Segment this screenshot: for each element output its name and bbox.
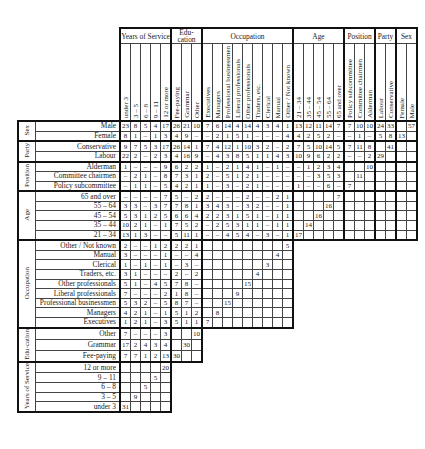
- table-cell: 16: [324, 201, 334, 211]
- table-cell: [283, 270, 294, 280]
- table-cell: [213, 260, 223, 270]
- table-cell: 5: [151, 373, 161, 383]
- table-cell: [375, 172, 386, 182]
- table-cell: –: [273, 172, 283, 182]
- table-cell: [273, 240, 283, 250]
- table-cell: [396, 151, 407, 161]
- row-group-label-text: Years of Service: [23, 363, 31, 409]
- table-cell: –: [131, 328, 141, 340]
- table-cell: [396, 172, 407, 182]
- table-row: 9 – 115: [18, 373, 417, 383]
- table-cell: 9: [192, 151, 203, 161]
- column-group-header: Age: [293, 28, 344, 44]
- column-group-header: Position: [344, 28, 375, 44]
- column-header: Professional businessmen: [223, 44, 233, 122]
- table-cell: [151, 362, 161, 372]
- column-header: 21 – 34: [293, 44, 304, 122]
- table-cell: 1: [120, 318, 131, 328]
- table-row: Edu-cationOther7–––310: [18, 328, 417, 340]
- table-cell: [273, 289, 283, 299]
- table-cell: [202, 270, 213, 280]
- column-header: 65 and over: [334, 44, 345, 122]
- table-cell: 10: [243, 141, 253, 151]
- row-label: Other / Not known: [36, 240, 121, 250]
- column-header-label: Executives: [204, 85, 212, 118]
- column-header-label: Policy subcommittee: [346, 57, 354, 118]
- table-cell: [243, 308, 253, 318]
- table-cell: 1: [263, 151, 273, 161]
- table-cell: 11: [355, 141, 365, 151]
- row-label: Traders, etc.: [36, 270, 121, 280]
- table-cell: [263, 279, 273, 289]
- table-cell: 3: [161, 131, 172, 141]
- table-cell: 3: [243, 201, 253, 211]
- column-group-header: Party: [375, 28, 396, 44]
- column-header-label: Traders, etc.: [254, 82, 262, 119]
- table-cell: [141, 373, 151, 383]
- table-cell: 1: [161, 260, 172, 270]
- column-header-label: 35 – 44: [305, 95, 313, 118]
- table-cell: 1: [141, 181, 151, 191]
- table-cell: [253, 289, 263, 299]
- table-row: Managers421–15128: [18, 308, 417, 318]
- column-header-label: Conservative: [387, 79, 395, 118]
- table-cell: [386, 151, 397, 161]
- column-header-label: Committee chairmen: [356, 57, 364, 118]
- table-cell: –: [202, 221, 213, 231]
- table-row: Traders, etc.31–––2–24: [18, 270, 417, 280]
- table-cell: [355, 162, 365, 172]
- table-cell: –: [151, 298, 161, 308]
- table-cell: 2: [314, 162, 324, 172]
- row-label: Labour: [36, 151, 121, 161]
- table-cell: [344, 172, 355, 182]
- row-label: Manual: [36, 250, 121, 260]
- table-cell: –: [151, 162, 161, 172]
- table-cell: [355, 191, 365, 201]
- row-label: 21 – 34: [36, 230, 121, 240]
- table-cell: 5: [141, 121, 151, 131]
- table-cell: 4: [253, 270, 263, 280]
- table-cell: 1: [141, 260, 151, 270]
- table-cell: [386, 181, 397, 191]
- table-cell: 1: [233, 162, 243, 172]
- table-cell: [202, 298, 213, 308]
- column-header: Female: [396, 44, 407, 122]
- table-cell: –: [213, 172, 223, 182]
- table-row: Professional businessmen532–587–15: [18, 298, 417, 308]
- table-cell: 3: [141, 230, 151, 240]
- column-header-label: Professional businessmen: [224, 44, 232, 118]
- table-cell: 13: [120, 230, 131, 240]
- column-header-label: 12 or more: [162, 85, 170, 118]
- table-cell: 8: [213, 308, 223, 318]
- table-cell: 10: [365, 121, 376, 131]
- row-group-label-text: Occupation: [23, 267, 31, 299]
- table-cell: 1: [141, 172, 151, 182]
- table-cell: –: [202, 131, 213, 141]
- table-cell: [344, 221, 355, 231]
- table-cell: 1: [141, 211, 151, 221]
- table-cell: 2: [131, 151, 141, 161]
- table-cell: 14: [243, 121, 253, 131]
- row-group-label-text: Position: [23, 164, 31, 187]
- table-cell: 3: [324, 162, 334, 172]
- row-label: Executives: [36, 318, 121, 328]
- table-cell: 1: [161, 221, 172, 231]
- table-cell: [273, 308, 283, 318]
- table-cell: –: [171, 260, 182, 270]
- column-header: Committee chairmen: [355, 44, 365, 122]
- table-cell: 17: [293, 230, 304, 240]
- row-label: Policy subcommittee: [36, 181, 121, 191]
- table-cell: [213, 270, 223, 280]
- table-cell: 8: [233, 151, 243, 161]
- table-cell: [344, 162, 355, 172]
- table-cell: 2: [213, 131, 223, 141]
- table-cell: 3: [263, 121, 273, 131]
- column-header: Traders, etc.: [253, 44, 263, 122]
- table-cell: 1: [120, 260, 131, 270]
- table-cell: 2: [202, 191, 213, 201]
- table-cell: [375, 211, 386, 221]
- table-cell: 10: [314, 141, 324, 151]
- table-cell: 1: [283, 230, 294, 240]
- table-cell: 4: [171, 181, 182, 191]
- table-cell: [233, 308, 243, 318]
